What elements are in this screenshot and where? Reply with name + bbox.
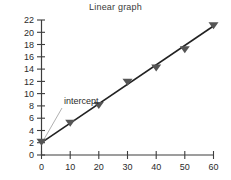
x-tick-label: 60 xyxy=(208,162,218,172)
chart-figure: Linear graph 0 2 4 6 8 10 xyxy=(0,0,231,180)
y-tick-label: 20 xyxy=(24,28,34,38)
x-tick-label: 20 xyxy=(94,162,104,172)
y-axis-tick-labels: 0 2 4 6 8 10 12 14 16 18 20 22 xyxy=(24,15,34,160)
y-tick-label: 18 xyxy=(24,40,34,50)
y-tick-label: 22 xyxy=(24,15,34,25)
x-tick-label: 10 xyxy=(65,162,75,172)
x-tick-label: 50 xyxy=(180,162,190,172)
x-tick-label: 0 xyxy=(39,162,44,172)
y-tick-label: 16 xyxy=(24,52,34,62)
y-tick-label: 10 xyxy=(24,89,34,99)
y-tick-label: 0 xyxy=(29,150,34,160)
linear-graph-plot: 0 2 4 6 8 10 12 14 16 18 20 22 0 10 xyxy=(0,0,231,180)
intercept-annotation-label: intercept xyxy=(64,96,99,106)
x-tick-label: 40 xyxy=(151,162,161,172)
y-tick-label: 8 xyxy=(29,101,34,111)
y-tick-label: 2 xyxy=(29,138,34,148)
y-tick-label: 6 xyxy=(29,113,34,123)
y-tick-label: 4 xyxy=(29,126,34,136)
y-tick-label: 14 xyxy=(24,64,34,74)
data-point-marker xyxy=(180,46,190,53)
x-tick-label: 30 xyxy=(122,162,132,172)
x-axis-tick-labels: 0 10 20 30 40 50 60 xyxy=(39,162,219,172)
y-tick-label: 12 xyxy=(24,77,34,87)
